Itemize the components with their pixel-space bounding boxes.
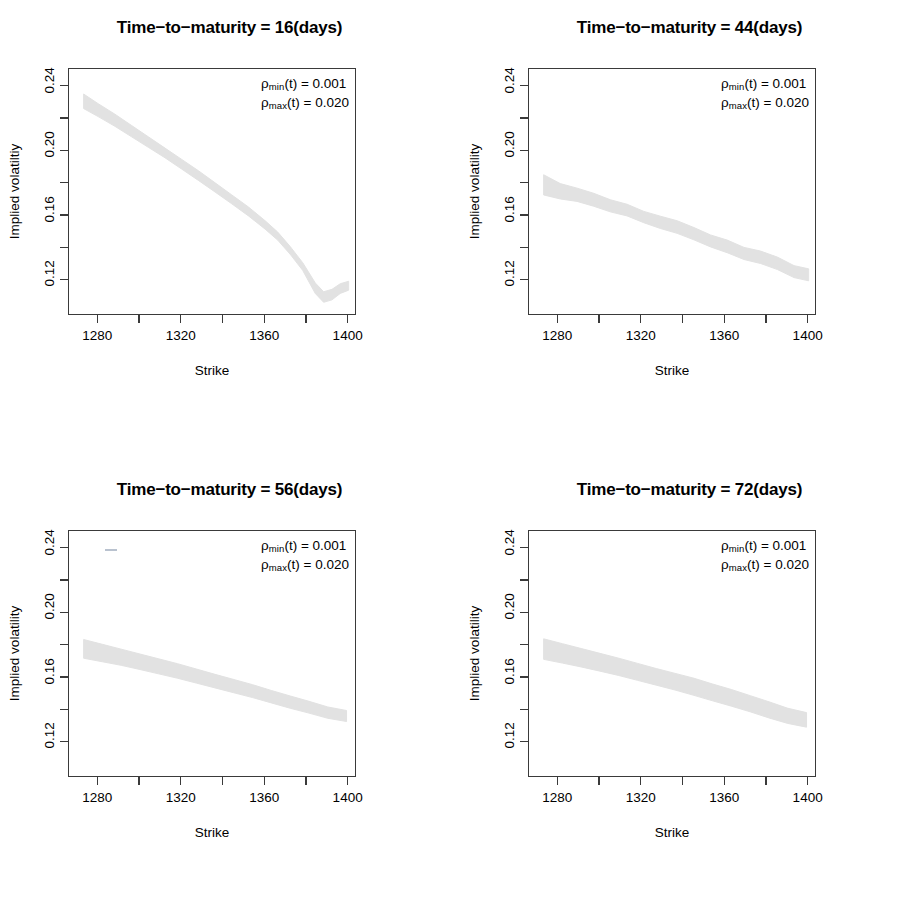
- x-tick-major: [640, 315, 641, 323]
- y-tick-minor: [520, 579, 528, 580]
- x-tick-major: [97, 777, 98, 785]
- chart-panel-56-days: Time−to−maturity = 56(days) ρmin(t) = 0.…: [0, 462, 459, 923]
- rho-max-subscript: max: [729, 562, 747, 573]
- chart-panel-44-days: Time−to−maturity = 44(days) ρmin(t) = 0.…: [460, 0, 919, 461]
- y-tick-label: 0.12: [50, 274, 65, 300]
- y-tick-minor: [60, 579, 68, 580]
- x-tick-major: [97, 315, 98, 323]
- y-tick-minor: [520, 644, 528, 645]
- x-tick-label: 1320: [166, 790, 196, 805]
- x-tick-minor: [222, 777, 223, 785]
- x-tick-label: 1280: [542, 790, 572, 805]
- y-tick-label: 0.16: [50, 671, 65, 697]
- x-tick-minor: [598, 777, 599, 785]
- y-axis-title: Implied volatility: [6, 530, 24, 777]
- x-tick-label: 1360: [249, 328, 279, 343]
- x-axis-title: Strike: [68, 825, 356, 840]
- x-tick-minor: [765, 315, 766, 323]
- y-tick-label: 0.12: [510, 736, 525, 762]
- y-tick-label: 0.12: [510, 274, 525, 300]
- y-tick-minor: [520, 182, 528, 183]
- x-tick-label: 1320: [626, 328, 656, 343]
- x-tick-minor: [305, 777, 306, 785]
- rho-max-subscript: max: [729, 100, 747, 111]
- y-tick-label: 0.20: [510, 607, 525, 633]
- y-tick-minor: [60, 247, 68, 248]
- x-tick-minor: [138, 777, 139, 785]
- panel-title: Time−to−maturity = 56(days): [0, 480, 459, 500]
- x-axis-title: Strike: [68, 363, 356, 378]
- y-tick-label: 0.20: [510, 145, 525, 171]
- x-tick-label: 1320: [626, 790, 656, 805]
- rho-min-subscript: min: [729, 543, 745, 554]
- confidence-band: [84, 94, 349, 302]
- x-tick-label: 1280: [82, 328, 112, 343]
- chart-panel-16-days: Time−to−maturity = 16(days) ρmin(t) = 0.…: [0, 0, 459, 461]
- x-tick-major: [724, 315, 725, 323]
- x-tick-label: 1320: [166, 328, 196, 343]
- rho-max-subscript: max: [269, 100, 287, 111]
- x-axis-title: Strike: [528, 825, 816, 840]
- x-tick-label: 1280: [82, 790, 112, 805]
- panel-title: Time−to−maturity = 44(days): [460, 18, 919, 38]
- x-tick-label: 1280: [542, 328, 572, 343]
- y-tick-label: 0.24: [50, 542, 65, 568]
- rho-min-line: ρmin(t) = 0.001: [261, 75, 349, 94]
- rho-min-subscript: min: [729, 81, 745, 92]
- x-tick-label: 1360: [249, 790, 279, 805]
- figure-implied-volatility-bands: Time−to−maturity = 16(days) ρmin(t) = 0.…: [0, 0, 919, 923]
- scan-artifact-mark: [105, 549, 117, 551]
- y-tick-label: 0.24: [50, 80, 65, 106]
- rho-max-line: ρmax(t) = 0.020: [721, 94, 809, 113]
- x-tick-label: 1360: [709, 328, 739, 343]
- y-tick-minor: [60, 182, 68, 183]
- x-tick-label: 1400: [333, 790, 363, 805]
- y-axis-title: Implied volatility: [466, 68, 484, 315]
- rho-annotation: ρmin(t) = 0.001 ρmax(t) = 0.020: [261, 537, 349, 574]
- confidence-band: [544, 175, 809, 281]
- y-axis-title: Implied volatility: [466, 530, 484, 777]
- x-tick-major: [724, 777, 725, 785]
- x-tick-minor: [138, 315, 139, 323]
- x-tick-major: [180, 315, 181, 323]
- y-tick-label: 0.20: [50, 145, 65, 171]
- y-tick-minor: [60, 644, 68, 645]
- x-tick-major: [347, 315, 348, 323]
- y-tick-label: 0.16: [510, 209, 525, 235]
- x-tick-major: [180, 777, 181, 785]
- y-tick-label: 0.20: [50, 607, 65, 633]
- x-tick-label: 1400: [333, 328, 363, 343]
- rho-max-subscript: max: [269, 562, 287, 573]
- y-tick-label: 0.16: [510, 671, 525, 697]
- plot-area: ρmin(t) = 0.001 ρmax(t) = 0.020: [68, 68, 356, 315]
- rho-max-line: ρmax(t) = 0.020: [261, 556, 349, 575]
- x-tick-major: [557, 777, 558, 785]
- x-tick-major: [347, 777, 348, 785]
- y-tick-minor: [520, 709, 528, 710]
- plot-area: ρmin(t) = 0.001 ρmax(t) = 0.020: [528, 68, 816, 315]
- rho-min-line: ρmin(t) = 0.001: [721, 537, 809, 556]
- y-tick-label: 0.24: [510, 542, 525, 568]
- plot-area: ρmin(t) = 0.001 ρmax(t) = 0.020: [68, 530, 356, 777]
- x-tick-major: [264, 777, 265, 785]
- x-tick-minor: [765, 777, 766, 785]
- x-tick-minor: [598, 315, 599, 323]
- y-tick-label: 0.12: [50, 736, 65, 762]
- chart-panel-72-days: Time−to−maturity = 72(days) ρmin(t) = 0.…: [460, 462, 919, 923]
- rho-max-line: ρmax(t) = 0.020: [261, 94, 349, 113]
- y-tick-minor: [520, 247, 528, 248]
- y-tick-label: 0.24: [510, 80, 525, 106]
- plot-area: ρmin(t) = 0.001 ρmax(t) = 0.020: [528, 530, 816, 777]
- y-tick-minor: [60, 709, 68, 710]
- x-tick-minor: [222, 315, 223, 323]
- x-tick-major: [557, 315, 558, 323]
- panel-title: Time−to−maturity = 16(days): [0, 18, 459, 38]
- y-axis-title: Implied volatiltiy: [6, 68, 24, 315]
- rho-max-line: ρmax(t) = 0.020: [721, 556, 809, 575]
- x-tick-major: [640, 777, 641, 785]
- x-tick-major: [807, 315, 808, 323]
- rho-min-line: ρmin(t) = 0.001: [261, 537, 349, 556]
- confidence-band: [84, 639, 347, 721]
- rho-min-line: ρmin(t) = 0.001: [721, 75, 809, 94]
- y-tick-label: 0.16: [50, 209, 65, 235]
